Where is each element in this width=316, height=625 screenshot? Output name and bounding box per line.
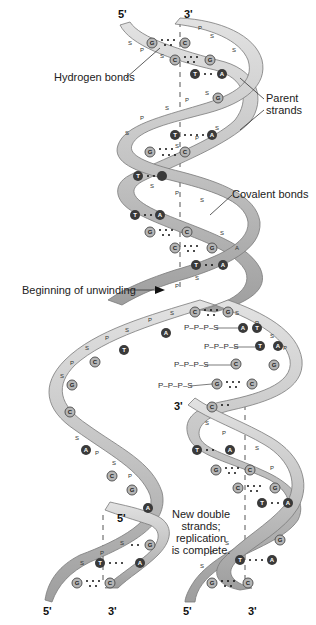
- svg-text:A: A: [286, 500, 291, 506]
- svg-text:P: P: [100, 550, 104, 556]
- svg-text:S: S: [210, 33, 214, 39]
- pair-gc-4: G C: [145, 227, 192, 237]
- free-nucleotide-3: P–P–P–S: [174, 360, 209, 369]
- left-daughter-helix: [45, 300, 215, 602]
- svg-text:A: A: [138, 560, 143, 566]
- svg-text:S: S: [125, 327, 129, 333]
- svg-text:P: P: [95, 450, 99, 456]
- pair-cg-2: C G: [170, 243, 217, 253]
- end-label-bottom-5prime-1: 5': [43, 605, 52, 617]
- svg-text:S: S: [175, 143, 179, 149]
- svg-text:T: T: [260, 500, 264, 506]
- svg-text:T: T: [136, 173, 140, 179]
- end-label-top-3prime: 3': [184, 8, 193, 20]
- complete-line4: is complete.: [166, 544, 236, 556]
- beginning-unwinding-label: Beginning of unwinding: [22, 284, 136, 296]
- svg-text:T: T: [98, 560, 102, 566]
- svg-text:P: P: [175, 283, 179, 289]
- svg-text:S: S: [165, 105, 169, 111]
- svg-text:C: C: [193, 309, 198, 315]
- svg-text:C: C: [108, 580, 113, 586]
- svg-text:P: P: [70, 360, 74, 366]
- pair-ta-1: T A: [190, 69, 227, 79]
- svg-text:P: P: [175, 190, 179, 196]
- svg-text:P: P: [140, 115, 144, 121]
- free-nucleotide-2: P–P–P–S: [204, 342, 239, 351]
- svg-text:T: T: [194, 262, 198, 268]
- svg-text:A: A: [164, 330, 169, 336]
- svg-text:A: A: [146, 505, 151, 511]
- svg-text:S: S: [215, 125, 219, 131]
- svg-text:C: C: [173, 245, 178, 251]
- svg-text:S: S: [60, 373, 64, 379]
- svg-text:S: S: [120, 540, 124, 546]
- svg-text:T: T: [255, 325, 259, 331]
- svg-text:G: G: [130, 487, 135, 493]
- pair-ta-2: T A: [170, 130, 217, 140]
- svg-text:P: P: [148, 317, 152, 323]
- complete-line1: New double: [166, 508, 236, 520]
- svg-text:C: C: [234, 361, 239, 367]
- svg-text:S: S: [85, 345, 89, 351]
- end-label-mid-3prime: 3': [174, 400, 183, 412]
- svg-text:A: A: [158, 212, 163, 218]
- svg-text:T: T: [173, 132, 177, 138]
- parent-strands-line2: strands: [266, 104, 302, 116]
- svg-text:A: A: [84, 447, 89, 453]
- svg-text:G: G: [150, 40, 155, 46]
- svg-text:G: G: [75, 580, 80, 586]
- svg-text:G: G: [272, 362, 277, 368]
- hydrogen-bonds-label: Hydrogen bonds: [54, 71, 135, 83]
- svg-text:P: P: [222, 430, 226, 436]
- svg-text:A: A: [241, 325, 246, 331]
- svg-text:S: S: [195, 275, 199, 281]
- svg-text:S: S: [80, 560, 84, 566]
- svg-text:C: C: [248, 467, 253, 473]
- svg-text:C: C: [185, 229, 190, 235]
- complete-line3: replication: [166, 532, 236, 544]
- svg-text:P: P: [270, 465, 274, 471]
- svg-text:G: G: [215, 381, 220, 387]
- svg-text:S: S: [125, 130, 129, 136]
- svg-text:S: S: [205, 90, 209, 96]
- svg-text:S: S: [220, 230, 224, 236]
- end-label-bottom-5prime-2: 5': [183, 605, 192, 617]
- svg-text:S: S: [205, 420, 209, 426]
- svg-text:C: C: [68, 409, 73, 415]
- svg-text:A: A: [220, 71, 225, 77]
- svg-text:S: S: [200, 197, 204, 203]
- svg-text:A: A: [221, 262, 226, 268]
- svg-text:G: G: [226, 309, 231, 315]
- svg-text:S: S: [160, 53, 164, 59]
- svg-text:S: S: [235, 310, 239, 316]
- pair-gc-3: G C: [145, 147, 190, 157]
- svg-text:G: G: [216, 95, 221, 101]
- svg-text:T: T: [258, 343, 262, 349]
- parent-helix: [108, 18, 263, 312]
- svg-text:A: A: [228, 447, 233, 453]
- svg-text:C: C: [173, 57, 178, 63]
- svg-text:A: A: [276, 343, 281, 349]
- svg-text:P: P: [128, 473, 132, 479]
- svg-text:A: A: [270, 557, 275, 563]
- svg-text:T: T: [133, 212, 137, 218]
- svg-text:P: P: [283, 345, 287, 351]
- svg-text:A: A: [210, 132, 215, 138]
- complete-line2: strands;: [166, 520, 236, 532]
- svg-text:C: C: [93, 359, 98, 365]
- pair-gc-2: G: [213, 93, 223, 103]
- svg-text:T: T: [193, 71, 197, 77]
- free-nucleotide-1: P–P–P–S: [184, 323, 219, 332]
- svg-text:T: T: [195, 447, 199, 453]
- replication-complete-label: New double strands; replication is compl…: [166, 508, 236, 556]
- svg-text:T: T: [238, 557, 242, 563]
- svg-text:S: S: [128, 40, 132, 46]
- svg-text:P: P: [185, 97, 189, 103]
- svg-text:C: C: [246, 580, 251, 586]
- svg-text:S: S: [270, 333, 274, 339]
- end-label-bottom-3prime-1: 3': [108, 605, 117, 617]
- svg-text:G: G: [214, 467, 219, 473]
- free-nucleotide-4: P–P–P–S: [158, 381, 193, 390]
- svg-text:S: S: [75, 435, 79, 441]
- svg-text:G: G: [148, 229, 153, 235]
